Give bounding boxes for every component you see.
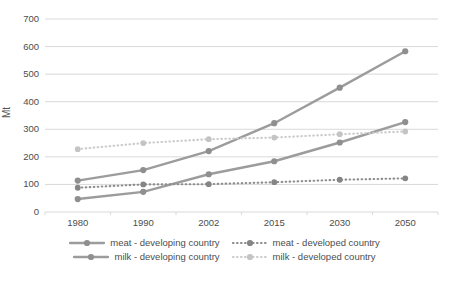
data-point-marker-milk-developed-country <box>140 140 146 146</box>
data-point-marker-meat-developed-country <box>402 175 408 181</box>
series-line-milk-developed-country <box>78 131 406 149</box>
legend-dotted-swatch-icon <box>232 238 268 248</box>
data-point-marker-meat-developing-country <box>75 196 81 202</box>
legend-swatch-graphic <box>232 252 268 262</box>
data-point-marker-meat-developing-country <box>271 158 277 164</box>
data-point-marker-meat-developed-country <box>140 182 146 188</box>
legend-line-swatch-icon <box>73 252 109 262</box>
data-point-marker-meat-developing-country <box>337 139 343 145</box>
x-axis-tick-label: 2050 <box>395 217 416 228</box>
y-axis-tick-label: 300 <box>23 123 39 134</box>
legend-label: milk - developed country <box>273 251 376 262</box>
data-point-marker-meat-developed-country <box>271 179 277 185</box>
data-point-marker-meat-developing-country <box>140 189 146 195</box>
data-point-marker-milk-developed-country <box>206 136 212 142</box>
x-axis-tick-label: 1990 <box>133 217 154 228</box>
y-axis-tick-label: 400 <box>23 96 39 107</box>
legend-label: meat - developing country <box>110 237 219 248</box>
y-axis-title: Mt <box>1 101 12 125</box>
data-point-marker-meat-developing-country <box>402 119 408 125</box>
chart-legend: meat - developing country meat - develop… <box>0 237 449 262</box>
legend-swatch-graphic <box>232 238 268 248</box>
legend-item-milk-developing: milk - developing country <box>73 251 219 262</box>
x-axis-tick-label: 2002 <box>198 217 219 228</box>
legend-line-swatch-icon <box>69 238 105 248</box>
series-line-meat-developing-country <box>78 122 406 199</box>
y-axis-tick-label: 100 <box>23 178 39 189</box>
data-point-marker-milk-developed-country <box>402 129 408 135</box>
data-point-marker-meat-developed-country <box>206 181 212 187</box>
data-point-marker-milk-developing-country <box>271 120 277 126</box>
legend-row: milk - developing country milk - develop… <box>73 251 375 262</box>
line-chart-figure: 0100200300400500600700198019902002201520… <box>0 0 449 284</box>
data-point-marker-meat-developed-country <box>337 177 343 183</box>
legend-swatch-graphic <box>73 252 109 262</box>
data-point-marker-milk-developed-country <box>271 135 277 141</box>
legend-item-milk-developed: milk - developed country <box>232 251 376 262</box>
y-axis-tick-label: 200 <box>23 151 39 162</box>
data-point-marker-milk-developing-country <box>140 167 146 173</box>
data-point-marker-milk-developing-country <box>337 85 343 91</box>
legend-dotted-swatch-icon <box>232 252 268 262</box>
data-point-marker-milk-developing-country <box>402 48 408 54</box>
data-point-marker-milk-developing-country <box>75 177 81 183</box>
x-axis-tick-label: 1980 <box>67 217 88 228</box>
series-line-meat-developed-country <box>78 178 406 187</box>
legend-item-meat-developed: meat - developed country <box>232 237 380 248</box>
y-axis-tick-label: 700 <box>23 13 39 24</box>
data-point-marker-milk-developing-country <box>206 148 212 154</box>
y-axis-tick-label: 600 <box>23 41 39 52</box>
legend-label: meat - developed country <box>273 237 380 248</box>
legend-item-meat-developing: meat - developing country <box>69 237 219 248</box>
x-axis-tick-label: 2030 <box>329 217 350 228</box>
y-axis-tick-label: 500 <box>23 68 39 79</box>
data-point-marker-meat-developing-country <box>206 171 212 177</box>
legend-swatch-graphic <box>69 238 105 248</box>
data-point-marker-milk-developed-country <box>337 131 343 137</box>
y-axis-tick-label: 0 <box>34 206 39 217</box>
legend-row: meat - developing country meat - develop… <box>69 237 380 248</box>
x-axis-tick-label: 2015 <box>264 217 285 228</box>
data-point-marker-meat-developed-country <box>75 185 81 191</box>
data-point-marker-milk-developed-country <box>75 146 81 152</box>
legend-label: milk - developing country <box>114 251 219 262</box>
series-line-milk-developing-country <box>78 51 406 180</box>
